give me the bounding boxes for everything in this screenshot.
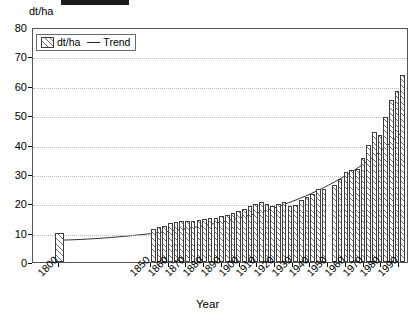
yield-trend-chart: dt/ha 01020304050607080 1800185018601870… [0,0,417,316]
y-tick-mark [28,204,32,205]
y-tick-label: 70 [0,51,27,63]
bar [185,221,190,262]
bar [151,229,156,262]
hatched-bar-swatch-icon [41,37,54,48]
y-tick-mark [28,175,32,176]
bar [383,117,388,262]
bar [236,211,241,262]
gridline [33,88,407,89]
plot-area [32,28,408,263]
legend-label-trend: Trend [103,37,130,48]
cropped-header-bar [61,0,129,5]
x-axis-title: Year [196,298,219,310]
bar [400,75,405,262]
y-tick-mark [28,57,32,58]
bar [332,185,337,262]
bar [316,189,321,262]
bar [242,209,247,262]
y-tick-label: 30 [0,169,27,181]
bar [219,216,224,262]
bar [361,158,366,262]
bar [395,91,400,262]
y-tick-label: 20 [0,198,27,210]
y-tick-label: 40 [0,140,27,152]
bar [299,200,304,262]
y-tick-label: 80 [0,22,27,34]
gridline [33,117,407,118]
y-tick-label: 10 [0,228,27,240]
y-tick-mark [28,146,32,147]
y-tick-mark [28,116,32,117]
y-tick-mark [28,234,32,235]
bar [202,219,207,262]
bar [288,206,293,262]
chart-legend: dt/ha Trend [36,34,136,51]
bar [276,204,281,262]
y-axis-title: dt/ha [29,5,53,17]
legend-label-bars: dt/ha [57,37,80,48]
y-tick-label: 0 [0,257,27,269]
bar [259,202,264,262]
bar [225,215,230,262]
legend-item-trend: Trend [87,37,130,48]
bar [389,100,394,262]
legend-item-bars: dt/ha [41,37,80,48]
bar [378,135,383,262]
bar [168,223,173,262]
bar [372,132,377,262]
bar [310,194,315,262]
y-tick-label: 50 [0,110,27,122]
y-tick-label: 60 [0,81,27,93]
bar [305,197,310,262]
bar [344,172,349,262]
y-tick-mark [28,87,32,88]
bar [338,179,343,262]
bar [355,169,360,262]
bar [253,204,258,262]
bar [349,170,354,262]
y-tick-mark [28,263,32,264]
bar [270,206,275,262]
trend-line-icon [87,42,100,43]
gridline [33,58,407,59]
bar [293,205,298,262]
gridline [33,147,407,148]
bar [322,189,327,262]
bar [366,145,371,262]
